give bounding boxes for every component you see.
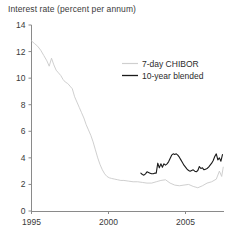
x-axis-tick-labels: 199520002005 — [22, 217, 195, 227]
y-tick-label: 14 — [16, 20, 26, 30]
y-tick-label: 8 — [21, 100, 26, 110]
y-tick-label: 0 — [21, 206, 26, 216]
x-tick-label: 1995 — [22, 217, 41, 227]
chart-plot-area: 02468101214 199520002005 7-day CHIBOR 10… — [0, 0, 231, 244]
y-tick-label: 12 — [16, 47, 26, 57]
series-line-10-year-blended — [141, 154, 223, 175]
chart-legend: 7-day CHIBOR 10-year blended — [122, 59, 204, 81]
y-axis-tick-labels: 02468101214 — [16, 20, 26, 216]
y-tick-label: 4 — [21, 153, 26, 163]
y-tick-label: 6 — [21, 126, 26, 136]
y-tick-label: 10 — [16, 73, 26, 83]
y-tick-label: 2 — [21, 179, 26, 189]
x-tick-label: 2005 — [176, 217, 195, 227]
interest-rate-chart: Interest rate (percent per annum) 024681… — [0, 0, 231, 244]
legend-label-10-year-blended: 10-year blended — [142, 71, 204, 81]
legend-label-7-day-chibor: 7-day CHIBOR — [142, 59, 199, 69]
x-tick-label: 2000 — [99, 217, 118, 227]
